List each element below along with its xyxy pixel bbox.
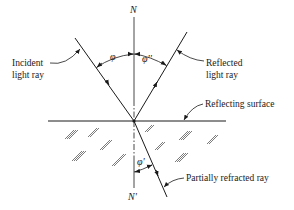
incident-ray: [75, 38, 134, 121]
reflected-ray-label-line2: light ray: [206, 70, 238, 80]
angle-refraction-label: φ': [137, 156, 146, 167]
refracted-ray-leader: [164, 178, 184, 187]
incident-ray-leader: [50, 49, 80, 63]
normal-top-label: N: [129, 4, 138, 15]
reflected-ray-label-line1: Reflected: [206, 58, 243, 68]
reflecting-surface-leader: [184, 104, 203, 120]
refracted-ray-label: Partially refracted ray: [186, 173, 269, 183]
incident-ray-label-line1: Incident: [12, 58, 43, 68]
incident-ray-label-line2: light ray: [12, 70, 44, 80]
optics-diagram: N N' φ φ'' φ' Incident light ray Reflect…: [0, 0, 294, 210]
reflected-ray-leader: [177, 50, 204, 61]
normal-bottom-label: N': [127, 191, 138, 202]
angle-reflection-label: φ'': [142, 53, 153, 64]
reflected-ray-arrow-icon: [154, 82, 157, 88]
reflected-ray: [134, 32, 187, 121]
reflecting-surface-label: Reflecting surface: [205, 99, 274, 109]
angle-incidence-label: φ: [110, 51, 116, 62]
